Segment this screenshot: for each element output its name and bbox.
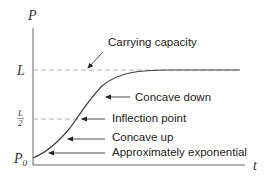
label-inflection-point: Inflection point [112,112,187,124]
tick-half-den: 2 [18,118,23,128]
tick-L: L [16,63,25,78]
label-concave-up: Concave up [112,131,173,143]
logistic-diagram: P t L L 2 P0 Carrying capacity Concave d… [0,0,272,181]
label-approx-exponential: Approximately exponential [112,146,247,158]
label-carrying-capacity: Carrying capacity [108,36,197,48]
tick-P0: P0 [13,151,28,168]
tick-half-num: L [17,108,23,118]
y-axis-label: P [27,8,37,23]
x-axis-label: t [253,158,258,173]
arrow-carrying-capacity [88,52,103,68]
label-concave-down: Concave down [135,91,211,103]
